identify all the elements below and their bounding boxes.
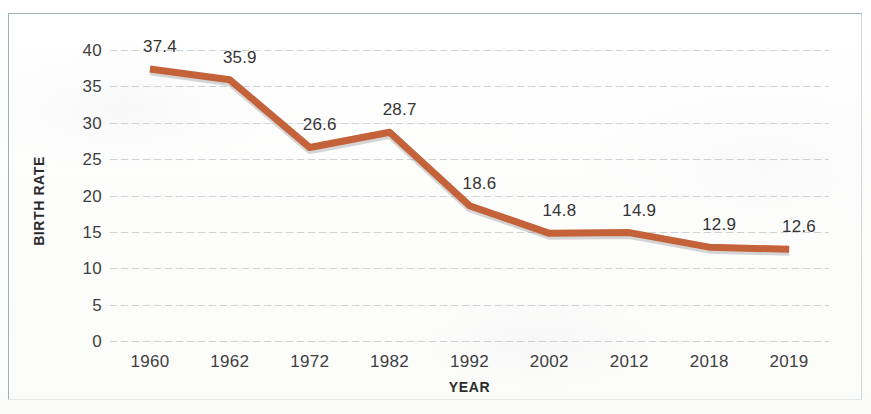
data-point-label: 14.9: [604, 201, 674, 221]
y-axis-tick-label: 20: [56, 188, 102, 205]
x-axis-tick-label: 1972: [270, 352, 350, 372]
y-axis-tick-label: 15: [56, 224, 102, 241]
data-point-label: 14.8: [524, 201, 594, 221]
gridline: [110, 341, 829, 342]
x-axis-tick-label: 2012: [589, 352, 669, 372]
y-axis-tick-label: 30: [56, 115, 102, 132]
data-point-label: 35.9: [205, 48, 275, 68]
chart-screenshot: BIRTH RATE 4035302520151050 37.435.926.6…: [0, 0, 871, 414]
y-axis-title: BIRTH RATE: [26, 142, 52, 260]
x-axis-tick-labels: 196019621972198219922002201220182019: [110, 352, 829, 374]
y-axis-tick-label: 5: [56, 297, 102, 314]
data-point-label: 12.9: [684, 215, 754, 235]
x-axis-tick-label: 2018: [669, 352, 749, 372]
data-point-label: 18.6: [445, 174, 515, 194]
data-point-label: 26.6: [285, 115, 355, 135]
x-axis-title: YEAR: [110, 379, 829, 395]
data-point-label: 12.6: [764, 217, 834, 237]
y-axis-tick-label: 35: [56, 78, 102, 95]
y-axis-tick-labels: 4035302520151050: [50, 50, 102, 341]
x-axis-tick-label: 1992: [430, 352, 510, 372]
data-point-label: 37.4: [125, 37, 195, 57]
x-axis-tick-label: 1962: [190, 352, 270, 372]
x-axis-tick-label: 1960: [110, 352, 190, 372]
y-axis-tick-label: 10: [56, 260, 102, 277]
x-axis-tick-label: 1982: [350, 352, 430, 372]
y-axis-tick-label: 40: [56, 42, 102, 59]
y-axis-tick-label: 0: [56, 333, 102, 350]
data-point-label: 28.7: [365, 100, 435, 120]
x-axis-tick-label: 2002: [509, 352, 589, 372]
y-axis-tick-label: 25: [56, 151, 102, 168]
y-axis-title-text: BIRTH RATE: [31, 156, 47, 246]
plot-area: [110, 50, 829, 341]
line-series-svg: [110, 50, 829, 341]
x-axis-tick-label: 2019: [749, 352, 829, 372]
